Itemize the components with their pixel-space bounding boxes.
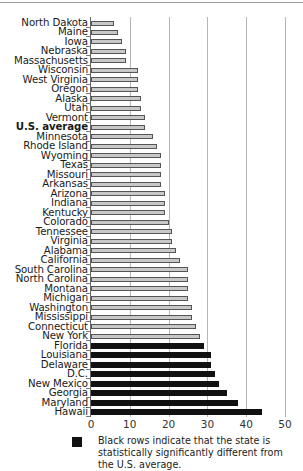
bar	[91, 144, 157, 149]
bar	[91, 153, 161, 158]
bar	[91, 30, 118, 35]
bar	[91, 77, 138, 82]
bar	[91, 49, 126, 54]
bar	[91, 39, 122, 44]
bar	[91, 286, 188, 291]
x-tick-label: 50	[278, 418, 291, 430]
bar	[91, 267, 188, 272]
bar-significant	[91, 400, 238, 406]
legend-text: Black rows indicate that the state is st…	[98, 435, 298, 471]
bar-significant	[91, 343, 204, 349]
bar	[91, 220, 169, 225]
x-tick-label: 10	[123, 418, 136, 430]
gridline-50	[285, 17, 286, 417]
bar-significant	[91, 409, 262, 415]
x-tick-label: 20	[162, 418, 175, 430]
bar	[91, 248, 176, 253]
bar	[91, 315, 192, 320]
x-tick-label: 30	[201, 418, 214, 430]
legend-significant-swatch	[72, 437, 82, 447]
bar	[91, 163, 161, 168]
category-label: Hawaii	[54, 407, 88, 417]
bar	[91, 229, 172, 234]
bar	[91, 277, 188, 282]
bar	[91, 115, 145, 120]
bar	[91, 87, 138, 92]
bar	[91, 68, 138, 73]
bar	[91, 324, 196, 329]
bar-significant	[91, 381, 219, 387]
y-tick	[86, 416, 90, 417]
bar	[91, 258, 180, 263]
bar	[91, 201, 165, 206]
bar-significant	[91, 371, 215, 377]
bar	[91, 305, 192, 310]
bar	[91, 210, 165, 215]
bar	[91, 334, 200, 339]
bar-significant	[91, 352, 211, 358]
bar	[91, 58, 126, 63]
bar	[91, 106, 141, 111]
bar	[91, 296, 188, 301]
bar	[91, 239, 172, 244]
bar	[91, 134, 153, 139]
bar	[91, 182, 161, 187]
bar-significant	[91, 390, 227, 396]
bar	[91, 172, 161, 177]
x-tick-label: 40	[240, 418, 253, 430]
bar	[91, 191, 165, 196]
x-tick-label: 0	[88, 418, 95, 430]
bar	[91, 96, 141, 101]
bar-significant	[91, 362, 211, 368]
bar	[91, 125, 145, 130]
bar	[91, 21, 114, 26]
gridline-40	[246, 17, 247, 417]
